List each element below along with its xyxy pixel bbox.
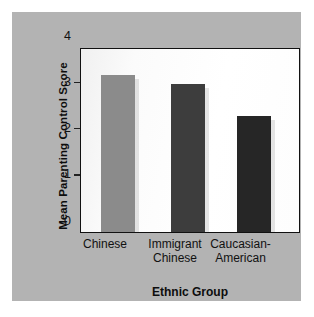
bar-fill bbox=[237, 116, 271, 232]
bar-shadow bbox=[205, 88, 209, 232]
x-axis-tick-label: Caucasian-American bbox=[196, 238, 286, 265]
bar bbox=[171, 84, 205, 232]
y-axis-tick-label: 2 bbox=[52, 122, 71, 135]
bar bbox=[237, 116, 271, 232]
x-axis-tick-label-line: American bbox=[196, 252, 286, 266]
y-axis-tick-label: 4 bbox=[52, 30, 71, 43]
chart-panel: Mean Parenting Control Score 01234 Chine… bbox=[12, 12, 301, 301]
bar-shadow bbox=[271, 120, 275, 232]
plot-area bbox=[80, 48, 300, 233]
bar-shadow bbox=[135, 79, 139, 232]
x-axis-tick-label-line: Caucasian- bbox=[196, 238, 286, 252]
y-axis-tick-label: 1 bbox=[52, 168, 71, 181]
x-axis-title: Ethnic Group bbox=[80, 285, 300, 299]
bar-series bbox=[81, 49, 299, 232]
y-axis-tick-label: 3 bbox=[52, 76, 71, 89]
y-axis-tick-label: 0 bbox=[52, 215, 71, 228]
bar-fill bbox=[101, 75, 135, 232]
figure: Mean Parenting Control Score 01234 Chine… bbox=[0, 0, 314, 317]
bar-fill bbox=[171, 84, 205, 232]
bar bbox=[101, 75, 135, 232]
